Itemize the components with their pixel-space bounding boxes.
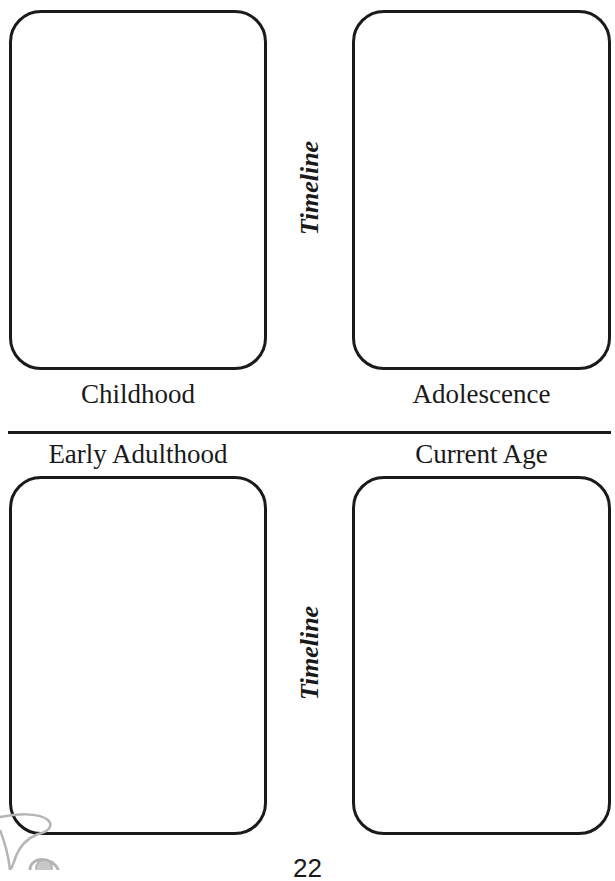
early-adulthood-box [9,476,267,835]
current-age-box [352,476,611,835]
section-divider [8,431,611,434]
early-adulthood-label: Early Adulthood [9,441,267,468]
timeline-label-top: Timeline [297,133,323,243]
adolescence-label: Adolescence [352,381,611,408]
current-age-label: Current Age [352,441,611,468]
adolescence-box [352,10,611,370]
page-number: 22 [0,855,615,881]
timeline-label-bottom: Timeline [297,598,323,708]
childhood-label: Childhood [9,381,267,408]
childhood-box [9,10,267,370]
